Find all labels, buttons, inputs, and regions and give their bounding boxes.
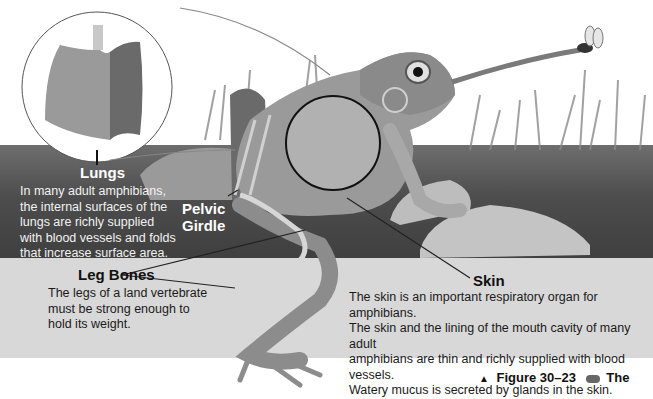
- figure-caption: ▲ Figure 30–23 The: [479, 370, 629, 385]
- triangle-marker-icon: ▲: [479, 373, 489, 384]
- tongue-illustration: [452, 50, 580, 82]
- figure-number: Figure 30–23: [497, 370, 577, 385]
- web-link-icon[interactable]: [586, 375, 600, 383]
- leg-bones-description: The legs of a land vertebrate must be st…: [48, 286, 207, 333]
- lung-highlight-circle: [286, 96, 380, 190]
- caption-text: The: [606, 370, 629, 385]
- leg-bones-title: Leg Bones: [78, 266, 155, 283]
- fly-illustration: [577, 26, 603, 53]
- pelvic-girdle-label: Pelvic Girdle: [182, 200, 225, 234]
- lungs-description: In many adult amphibians, the internal s…: [20, 184, 176, 262]
- skin-title: Skin: [473, 272, 505, 289]
- lungs-title: Lungs: [80, 164, 125, 181]
